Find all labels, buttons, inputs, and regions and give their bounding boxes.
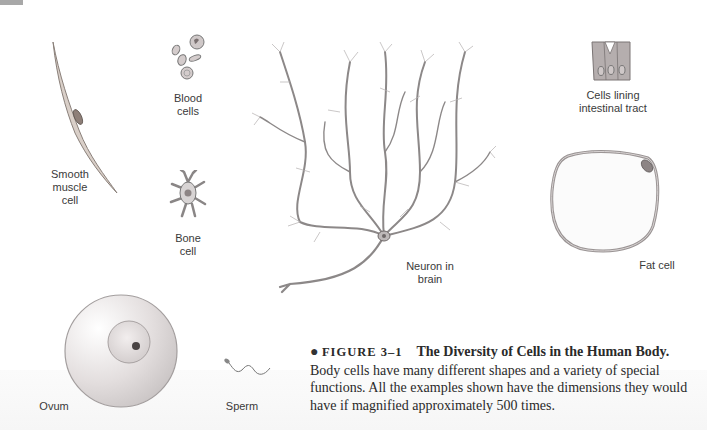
bone-cell-label: Bone cell <box>168 232 208 258</box>
figure-title: The Diversity of Cells in the Human Body… <box>416 344 669 359</box>
fat-cell-label: Fat cell <box>632 259 682 272</box>
neuron-illustration <box>250 22 500 302</box>
bone-cell-illustration <box>168 170 208 220</box>
blood-cells-illustration <box>168 30 208 85</box>
sperm-illustration <box>222 356 274 380</box>
figure-number: FIGURE 3–1 <box>322 345 403 359</box>
neuron-label: Neuron in brain <box>400 260 460 286</box>
figure-body: Body cells have many different shapes an… <box>310 363 687 413</box>
caption-bullet-icon: ● <box>310 344 318 359</box>
ovum-label: Ovum <box>37 400 71 413</box>
blood-cells-label: Blood cells <box>168 92 208 118</box>
page-corner-marker <box>0 0 23 5</box>
intestinal-cells-label: Cells lining intestinal tract <box>568 89 658 115</box>
fat-cell-illustration <box>548 146 663 256</box>
ovum-illustration <box>62 292 180 410</box>
intestinal-cells-illustration <box>590 40 632 82</box>
smooth-muscle-label: Smooth muscle cell <box>45 168 95 207</box>
sperm-label: Sperm <box>222 400 262 413</box>
figure-caption: ● FIGURE 3–1 The Diversity of Cells in t… <box>310 343 705 414</box>
